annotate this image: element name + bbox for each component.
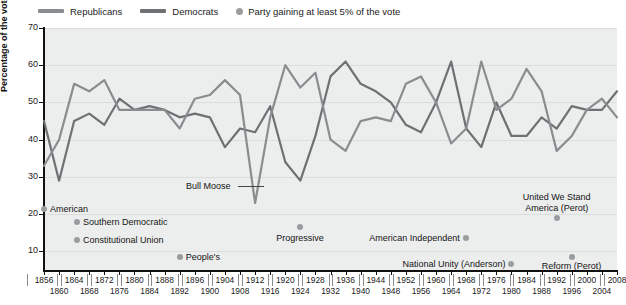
x-tick-label: 1972 [464, 286, 498, 296]
x-tick-label: 1868 [72, 286, 106, 296]
y-axis-title: Percentage of the vote [0, 0, 9, 92]
annotation-label: American Independent [369, 233, 460, 243]
x-tick-label: 1924 [283, 286, 317, 296]
x-label-separator [510, 274, 511, 286]
third-party-point [554, 215, 560, 221]
x-label-separator [238, 274, 239, 286]
annotation-leader-line [238, 186, 264, 187]
y-tick-label: 70 [14, 22, 38, 32]
x-label-separator [148, 274, 149, 286]
x-label-separator [389, 274, 390, 286]
x-tick-label: 1956 [404, 286, 438, 296]
x-tick-label: 1920 [268, 275, 302, 285]
x-tick-label: 1872 [87, 275, 121, 285]
x-tick-label: 1940 [344, 286, 378, 296]
x-label-separator [208, 274, 209, 286]
x-tick-label: 1896 [178, 275, 212, 285]
x-tick-label: 1916 [253, 286, 287, 296]
x-tick-label: 1980 [494, 286, 528, 296]
annotation-label-bull-moose: Bull Moose [186, 181, 231, 191]
x-label-separator [178, 274, 179, 286]
x-tick-label: 1932 [314, 286, 348, 296]
chart-legend: Republicans Democrats Party gaining at l… [38, 3, 418, 19]
x-label-separator [419, 274, 420, 286]
x-tick-label: 2004 [585, 286, 619, 296]
x-label-separator [479, 274, 480, 286]
x-tick-label: 1864 [57, 275, 91, 285]
annotation-label: Reform (Perot) [542, 261, 602, 271]
x-label-separator [27, 274, 28, 286]
x-tick-label: 1968 [449, 275, 483, 285]
y-tick-label: 40 [14, 134, 38, 144]
republicans-line-swatch [38, 9, 64, 13]
x-tick-label: 1976 [479, 275, 513, 285]
legend-item-democrats: Democrats [140, 6, 218, 17]
x-tick-label: 2000 [570, 275, 604, 285]
x-tick-label: 1964 [434, 286, 468, 296]
y-tick-label: 20 [14, 208, 38, 218]
legend-label-republicans: Republicans [70, 6, 122, 17]
x-label-separator [570, 274, 571, 286]
chart-figure: Republicans Democrats Party gaining at l… [0, 0, 626, 305]
third-party-point [177, 254, 183, 260]
x-label-separator [540, 274, 541, 286]
series-lines [44, 28, 617, 270]
third-party-dot-swatch [236, 8, 243, 15]
legend-label-democrats: Democrats [172, 6, 218, 17]
annotation-label: Constitutional Union [83, 235, 164, 245]
x-tick-label: 1952 [389, 275, 423, 285]
x-tick-label: 1884 [133, 286, 167, 296]
annotation-label: National Unity (Anderson) [402, 259, 505, 269]
x-tick-label: 1876 [102, 286, 136, 296]
x-tick-label: 1892 [163, 286, 197, 296]
x-tick-label: 1904 [208, 275, 242, 285]
x-tick-label: 1992 [540, 275, 574, 285]
x-tick-label: 1860 [42, 286, 76, 296]
x-tick-label: 1900 [193, 286, 227, 296]
x-tick-label: 1936 [329, 275, 363, 285]
y-tick-label: 50 [14, 96, 38, 106]
x-label-separator [359, 274, 360, 286]
legend-item-third-party: Party gaining at least 5% of the vote [236, 6, 400, 17]
x-tick-label: 1880 [117, 275, 151, 285]
x-tick-label: 1928 [298, 275, 332, 285]
x-tick-label: 1984 [510, 275, 544, 285]
x-tick-label: 1948 [374, 286, 408, 296]
x-label-separator [449, 274, 450, 286]
annotation-label: Southern Democratic [83, 217, 168, 227]
y-tick-label: 60 [14, 59, 38, 69]
x-label-separator [57, 274, 58, 286]
x-label-separator [329, 274, 330, 286]
x-tick-label: 1856 [27, 275, 61, 285]
x-tick-label: 1996 [555, 286, 589, 296]
x-tick-label: 1988 [525, 286, 559, 296]
legend-item-republicans: Republicans [38, 6, 122, 17]
x-tick-label: 1888 [148, 275, 182, 285]
x-tick-label: 1944 [359, 275, 393, 285]
annotation-label: Progressive [276, 233, 324, 243]
democrats-line [44, 62, 617, 181]
annotation-label: People's [186, 252, 220, 262]
y-tick-label: 10 [14, 245, 38, 255]
x-label-separator [298, 274, 299, 286]
democrats-line-swatch [140, 9, 166, 13]
x-tick-label: 1912 [238, 275, 272, 285]
x-label-separator [268, 274, 269, 286]
x-tick-label: 1908 [223, 286, 257, 296]
y-tick-label: 30 [14, 171, 38, 181]
republicans-line [44, 62, 617, 203]
annotation-label: American [50, 204, 88, 214]
x-label-separator [87, 274, 88, 286]
legend-label-third-party: Party gaining at least 5% of the vote [248, 6, 400, 17]
annotation-label: United We Stand America (Perot) [514, 192, 600, 214]
x-tick-label: 2008 [600, 275, 626, 285]
x-label-separator [117, 274, 118, 286]
x-tick-label: 1960 [419, 275, 453, 285]
x-label-separator [600, 274, 601, 286]
third-party-point [41, 206, 47, 212]
third-party-point [74, 219, 80, 225]
